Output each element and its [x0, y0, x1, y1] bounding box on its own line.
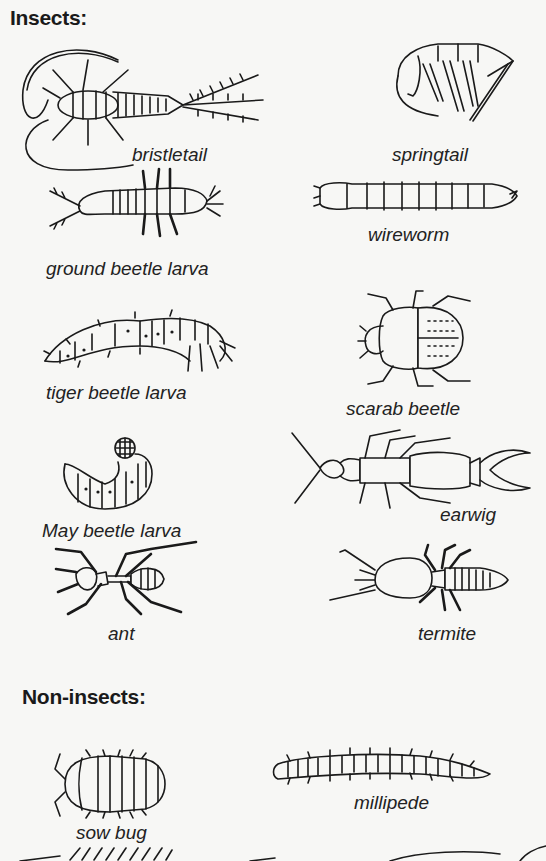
wireworm-icon — [312, 176, 522, 216]
springtail-icon — [378, 36, 518, 126]
springtail-label: springtail — [392, 144, 468, 166]
insects-heading: Insects: — [10, 6, 87, 30]
ant-icon — [56, 544, 206, 619]
ant-label: ant — [108, 623, 134, 645]
earwig-label: earwig — [440, 504, 496, 526]
may-beetle-larva-icon — [60, 434, 170, 514]
millipede-label: millipede — [354, 792, 429, 814]
earwig-icon — [290, 428, 540, 518]
scarab-beetle-icon — [338, 286, 478, 396]
centipede-partial-icon — [0, 846, 546, 861]
termite-label: termite — [418, 623, 476, 645]
non-insects-heading: Non-insects: — [22, 685, 146, 709]
millipede-icon — [270, 744, 495, 789]
termite-icon — [320, 540, 520, 615]
wireworm-label: wireworm — [368, 224, 449, 246]
sow-bug-label: sow bug — [76, 822, 147, 844]
may-beetle-larva-label: May beetle larva — [42, 520, 181, 542]
tiger-beetle-larva-label: tiger beetle larva — [46, 382, 186, 404]
sow-bug-icon — [50, 744, 175, 824]
scarab-beetle-label: scarab beetle — [346, 398, 460, 420]
tiger-beetle-larva-icon — [40, 306, 240, 381]
bristletail-label: bristletail — [132, 144, 207, 166]
ground-beetle-larva-label: ground beetle larva — [46, 258, 209, 280]
ground-beetle-larva-icon — [45, 166, 230, 251]
